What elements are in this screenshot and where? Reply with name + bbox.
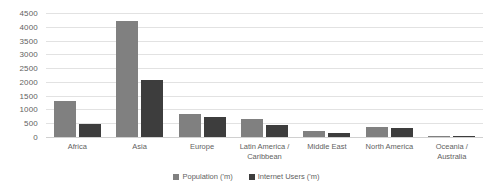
x-axis-tick-label: Middle East (296, 139, 358, 169)
bar-chart: 050010001500200025003000350040004500 Afr… (0, 0, 493, 193)
legend-swatch-icon (249, 174, 255, 180)
x-axis-tick-label: Oceania / Australia (421, 139, 483, 169)
y-axis-tick-label: 500 (24, 119, 38, 128)
bars-layer (46, 13, 483, 137)
x-axis: AfricaAsiaEuropeLatin America / Caribbea… (46, 139, 483, 169)
y-axis: 050010001500200025003000350040004500 (0, 13, 42, 137)
bar-1[interactable] (204, 117, 226, 137)
bar-0[interactable] (179, 114, 201, 137)
bar-1[interactable] (266, 125, 288, 137)
y-axis-tick-label: 4000 (19, 22, 38, 31)
bar-0[interactable] (54, 101, 76, 137)
bar-group (421, 13, 483, 137)
bar-1[interactable] (391, 128, 413, 137)
x-axis-tick-label: Latin America / Caribbean (233, 139, 295, 169)
bar-group (171, 13, 233, 137)
bar-1[interactable] (79, 124, 101, 137)
y-axis-tick-label: 1000 (19, 105, 38, 114)
plot-area (46, 13, 483, 137)
chart-legend: Population ('m)Internet Users ('m) (0, 172, 493, 181)
bar-0[interactable] (366, 127, 388, 137)
bar-0[interactable] (428, 136, 450, 137)
x-axis-tick-label: Asia (108, 139, 170, 169)
y-axis-tick-label: 3500 (19, 36, 38, 45)
bar-0[interactable] (241, 119, 263, 137)
bar-group (358, 13, 420, 137)
bar-group (233, 13, 295, 137)
bar-group (108, 13, 170, 137)
legend-item[interactable]: Population ('m) (173, 172, 232, 181)
y-axis-tick-label: 2000 (19, 77, 38, 86)
bar-1[interactable] (453, 136, 475, 137)
x-axis-tick-label: Europe (171, 139, 233, 169)
legend-label: Internet Users ('m) (258, 172, 320, 181)
legend-item[interactable]: Internet Users ('m) (249, 172, 320, 181)
bar-group (296, 13, 358, 137)
x-axis-tick-label: North America (358, 139, 420, 169)
y-axis-tick-label: 0 (33, 133, 38, 142)
x-axis-tick-label: Africa (46, 139, 108, 169)
legend-label: Population ('m) (182, 172, 232, 181)
bar-1[interactable] (141, 80, 163, 137)
legend-swatch-icon (173, 174, 179, 180)
bar-0[interactable] (116, 21, 138, 137)
bar-0[interactable] (303, 131, 325, 137)
y-axis-tick-label: 1500 (19, 91, 38, 100)
y-axis-tick-label: 2500 (19, 64, 38, 73)
axis-baseline (46, 137, 483, 138)
y-axis-tick-label: 3000 (19, 50, 38, 59)
y-axis-tick-label: 4500 (19, 9, 38, 18)
bar-group (46, 13, 108, 137)
bar-1[interactable] (328, 133, 350, 137)
